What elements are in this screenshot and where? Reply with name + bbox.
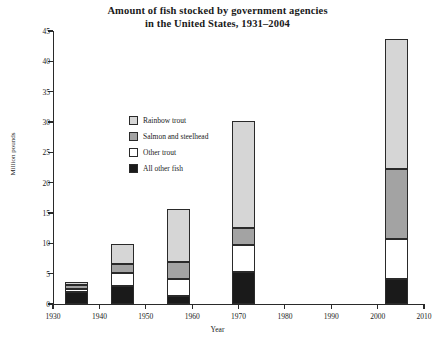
legend-item: Salmon and steelhead xyxy=(129,128,208,144)
y-tick-label: 10 xyxy=(43,239,51,248)
bar-segment xyxy=(111,286,134,304)
x-tick-mark xyxy=(52,304,53,309)
x-axis-label: Year xyxy=(0,325,435,334)
legend-item: Rainbow trout xyxy=(129,112,208,128)
x-tick-mark xyxy=(238,304,239,309)
x-tick-label: 2010 xyxy=(417,312,432,321)
x-tick-label: 1950 xyxy=(138,312,153,321)
y-tick-label: 40 xyxy=(43,57,51,66)
bar-segment xyxy=(65,285,88,289)
y-tick-label: 25 xyxy=(43,148,51,157)
x-tick-mark xyxy=(99,304,100,309)
bar-segment xyxy=(385,279,408,304)
x-tick-label: 1990 xyxy=(324,312,339,321)
bar-segment xyxy=(167,209,190,262)
x-tick-label: 1970 xyxy=(231,312,246,321)
x-tick-mark xyxy=(284,304,285,309)
bar-segment xyxy=(65,282,88,285)
bar-segment xyxy=(65,289,88,293)
legend-swatch-icon xyxy=(129,148,138,157)
bar-segment xyxy=(232,245,255,273)
x-tick-label: 1980 xyxy=(277,312,292,321)
x-tick-mark xyxy=(331,304,332,309)
x-tick-label: 1930 xyxy=(46,312,61,321)
bar-segment xyxy=(167,279,190,296)
legend-item: Other trout xyxy=(129,144,208,160)
bar-segment xyxy=(385,239,408,279)
chart-title-line-2: in the United States, 1931–2004 xyxy=(0,17,435,30)
bar-segment xyxy=(111,244,134,264)
legend-swatch-icon xyxy=(129,116,138,125)
x-tick-mark xyxy=(145,304,146,309)
y-tick-label: 15 xyxy=(43,209,51,218)
plot-area: 051015202530354045 193019401950196019701… xyxy=(53,31,424,304)
bar-column xyxy=(65,31,88,304)
x-tick-mark xyxy=(192,304,193,309)
y-axis-label: Million pounds xyxy=(9,114,17,194)
y-tick-label: 30 xyxy=(43,118,51,127)
legend-swatch-icon xyxy=(129,132,138,141)
bar-segment xyxy=(111,264,134,273)
y-tick-label: 0 xyxy=(46,300,50,309)
x-tick-mark xyxy=(377,304,378,309)
y-tick-label: 35 xyxy=(43,87,51,96)
legend-label: Salmon and steelhead xyxy=(143,132,208,141)
bar-segment xyxy=(111,273,134,286)
y-tick-label: 45 xyxy=(43,27,51,36)
x-tick-label: 1940 xyxy=(92,312,107,321)
x-tick-label: 2000 xyxy=(370,312,385,321)
x-tick-mark xyxy=(423,304,424,309)
legend-label: All other fish xyxy=(143,164,183,173)
x-tick-label: 1960 xyxy=(185,312,200,321)
y-tick-label: 5 xyxy=(46,269,50,278)
bar-column xyxy=(232,31,255,304)
legend-label: Other trout xyxy=(143,148,176,157)
bar-column xyxy=(385,31,408,304)
bar-segment xyxy=(232,272,255,304)
bar-segment xyxy=(167,262,190,278)
legend-label: Rainbow trout xyxy=(143,116,186,125)
chart-legend: Rainbow troutSalmon and steelheadOther t… xyxy=(129,112,208,176)
bar-segment xyxy=(232,121,255,228)
legend-swatch-icon xyxy=(129,164,138,173)
legend-item: All other fish xyxy=(129,160,208,176)
chart-title: Amount of fish stocked by government age… xyxy=(0,4,435,30)
chart-title-line-1: Amount of fish stocked by government age… xyxy=(0,4,435,17)
bar-segment xyxy=(385,169,408,239)
bar-segment xyxy=(232,228,255,244)
y-tick-label: 20 xyxy=(43,178,51,187)
fish-stocking-chart: Amount of fish stocked by government age… xyxy=(0,0,435,346)
y-axis-line xyxy=(53,31,54,304)
bar-segment xyxy=(167,296,190,304)
bar-segment xyxy=(65,292,88,304)
bar-segment xyxy=(385,39,408,168)
